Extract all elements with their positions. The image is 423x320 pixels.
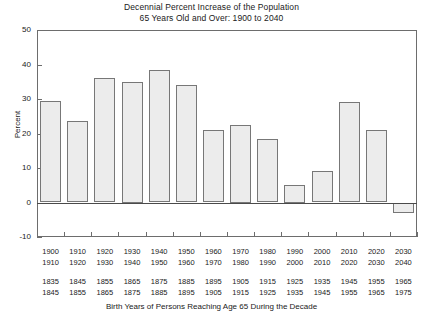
decade-end: 2010 (314, 258, 331, 267)
x-decade-label: 19001910 (37, 246, 64, 268)
birth-end: 1895 (178, 288, 195, 297)
decade-start: 1960 (205, 247, 222, 256)
birth-start: 1855 (97, 277, 114, 286)
birth-start: 1865 (124, 277, 141, 286)
chart-container: Decennial Percent Increase of the Popula… (0, 0, 423, 320)
y-tick-label: 40 (5, 61, 31, 69)
x-decade-label: 20202030 (363, 246, 390, 268)
decade-start: 1980 (259, 247, 276, 256)
decade-start: 1950 (178, 247, 195, 256)
birth-start: 1915 (259, 277, 276, 286)
bar (339, 102, 360, 202)
bar (40, 101, 61, 203)
decade-end: 1990 (259, 258, 276, 267)
y-tick-mark (37, 237, 42, 238)
birth-start: 1945 (341, 277, 358, 286)
birth-end: 1975 (395, 288, 412, 297)
x-birth-year-label: 18551865 (91, 276, 118, 298)
birth-start: 1955 (368, 277, 385, 286)
x-birth-year-label: 19151925 (254, 276, 281, 298)
x-tick-mark (390, 232, 391, 237)
decade-start: 1940 (151, 247, 168, 256)
y-axis-label: Percent (13, 95, 22, 155)
bar (257, 139, 278, 203)
x-tick-mark (417, 232, 418, 237)
x-decade-label: 19301940 (119, 246, 146, 268)
x-tick-mark (336, 232, 337, 237)
x-decade-label: 19501960 (173, 246, 200, 268)
x-decade-label: 20302040 (390, 246, 417, 268)
decade-start: 2020 (368, 247, 385, 256)
x-decade-label: 19201930 (91, 246, 118, 268)
decade-end: 2000 (287, 258, 304, 267)
x-decade-label: 19101920 (64, 246, 91, 268)
birth-start: 1965 (395, 277, 412, 286)
x-tick-mark (200, 232, 201, 237)
y-tick-label: 50 (5, 26, 31, 34)
x-birth-year-label: 18951905 (200, 276, 227, 298)
x-birth-year-label: 19251935 (281, 276, 308, 298)
x-tick-mark (227, 232, 228, 237)
x-decade-label: 20102020 (336, 246, 363, 268)
decade-start: 1900 (42, 247, 59, 256)
birth-end: 1925 (259, 288, 276, 297)
x-tick-mark (281, 232, 282, 237)
x-tick-mark (308, 232, 309, 237)
birth-end: 1915 (232, 288, 249, 297)
bar (284, 185, 305, 202)
birth-start: 1925 (287, 277, 304, 286)
chart-title-line-2: 65 Years Old and Over: 1900 to 2040 (0, 13, 423, 24)
decade-end: 1950 (151, 258, 168, 267)
decade-start: 2010 (341, 247, 358, 256)
birth-end: 1955 (341, 288, 358, 297)
x-tick-mark (91, 232, 92, 237)
decade-end: 1970 (205, 258, 222, 267)
x-tick-mark (118, 232, 119, 237)
zero-baseline (37, 203, 417, 204)
x-axis-decade-labels: 1900191019101920192019301930194019401950… (37, 246, 417, 268)
birth-start: 1905 (232, 277, 249, 286)
decade-end: 1910 (42, 258, 59, 267)
y-tick-label: -10 (5, 233, 31, 241)
bar (366, 130, 387, 202)
decade-end: 1940 (124, 258, 141, 267)
birth-start: 1935 (314, 277, 331, 286)
birth-end: 1855 (69, 288, 86, 297)
x-birth-year-label: 18351845 (37, 276, 64, 298)
bar (203, 130, 224, 202)
bar (230, 125, 251, 203)
y-tick-label: 0 (5, 199, 31, 207)
x-birth-year-label: 19351945 (309, 276, 336, 298)
bar-series (37, 30, 417, 237)
birth-end: 1965 (368, 288, 385, 297)
x-tick-mark (64, 232, 65, 237)
x-tick-mark (173, 232, 174, 237)
decade-start: 1990 (287, 247, 304, 256)
birth-start: 1875 (151, 277, 168, 286)
decade-end: 2020 (341, 258, 358, 267)
decade-start: 1910 (69, 247, 86, 256)
decade-start: 1920 (97, 247, 114, 256)
x-birth-year-label: 18451855 (64, 276, 91, 298)
birth-start: 1885 (178, 277, 195, 286)
x-birth-year-label: 18651875 (119, 276, 146, 298)
y-tick-label: 30 (5, 95, 31, 103)
x-tick-mark (254, 232, 255, 237)
chart-title: Decennial Percent Increase of the Popula… (0, 2, 423, 24)
x-birth-year-label: 19051915 (227, 276, 254, 298)
x-decade-label: 19801990 (254, 246, 281, 268)
bar (176, 85, 197, 202)
x-birth-year-label: 19451955 (336, 276, 363, 298)
birth-end: 1865 (97, 288, 114, 297)
x-birth-year-label: 18751885 (146, 276, 173, 298)
birth-start: 1835 (42, 277, 59, 286)
decade-end: 1920 (69, 258, 86, 267)
decade-end: 1980 (232, 258, 249, 267)
decade-end: 2040 (395, 258, 412, 267)
y-tick-label: 20 (5, 130, 31, 138)
decade-start: 2000 (314, 247, 331, 256)
bar (149, 70, 170, 203)
x-decade-label: 19601970 (200, 246, 227, 268)
x-axis-caption: Birth Years of Persons Reaching Age 65 D… (0, 302, 423, 311)
birth-end: 1885 (151, 288, 168, 297)
